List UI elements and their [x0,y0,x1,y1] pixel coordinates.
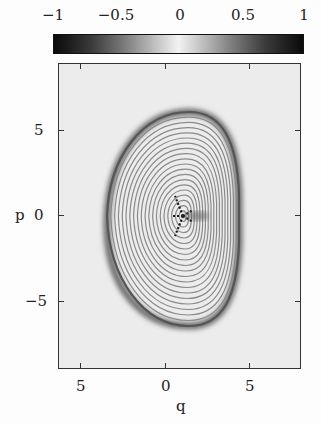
x-tick [249,363,250,369]
x-tick-label: 5 [245,377,255,395]
colorbar [53,34,304,54]
colorbar-tick-label: −0.5 [98,6,134,24]
x-tick-label: 0 [161,377,171,395]
y-tick [58,215,64,216]
y-tick [295,301,301,302]
density-plot [59,64,301,369]
y-tick [295,215,301,216]
y-tick-label: −5 [25,292,47,310]
y-tick-label: 0 [34,206,44,224]
colorbar-tick-label: 0 [175,6,185,24]
x-tick [165,63,166,69]
colorbar-tick-label: 0.5 [231,6,255,24]
y-tick-label: 5 [34,121,44,139]
x-tick [80,63,81,69]
x-tick [249,63,250,69]
x-tick [165,363,166,369]
colorbar-tick-label: 1 [299,6,309,24]
x-tick [80,363,81,369]
x-tick-label: 5 [76,377,86,395]
colorbar-tick-label: −1 [42,6,64,24]
y-tick [58,130,64,131]
x-axis-label: q [176,397,186,415]
y-axis-label: p [15,206,25,224]
y-tick [295,130,301,131]
plot-area [58,63,301,369]
y-tick [58,301,64,302]
